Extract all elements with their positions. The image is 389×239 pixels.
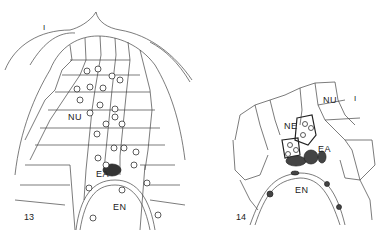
fig14-label-endosperm: EN xyxy=(295,186,309,195)
fig13-label-endosperm: EN xyxy=(113,203,127,212)
figure-13-number: 13 xyxy=(24,213,34,222)
fig14-label-nucellar-embryo: NE xyxy=(284,122,298,131)
fig14-scale-bar: I xyxy=(354,95,357,103)
figure-14-number: 14 xyxy=(236,213,246,222)
fig14-label-nucellus: NU xyxy=(323,96,337,105)
figure-14-drawing xyxy=(233,82,375,225)
fig13-label-nucellus: NU xyxy=(68,113,82,122)
fig13-label-egg-apparatus: EA xyxy=(96,170,109,179)
botanical-illustration xyxy=(0,0,389,239)
figure-13-drawing xyxy=(5,12,192,230)
fig13-label-integument: I xyxy=(43,24,46,32)
fig14-label-egg-apparatus: EA xyxy=(318,145,331,154)
